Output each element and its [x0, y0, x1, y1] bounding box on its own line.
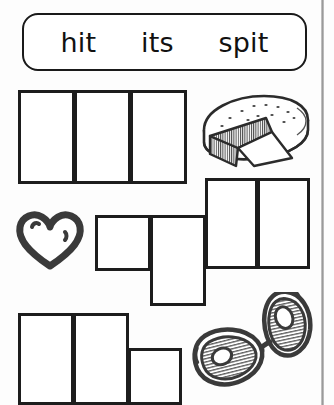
- letter-box-2-a[interactable]: [95, 215, 151, 271]
- letter-box-3-a[interactable]: [18, 313, 74, 405]
- sunglasses-icon: [188, 292, 318, 400]
- sunglasses-illustration: [188, 292, 318, 400]
- word-bank-item-its[interactable]: its: [141, 29, 174, 56]
- letter-box-2-c[interactable]: [205, 178, 258, 269]
- letter-box-1-b[interactable]: [74, 90, 131, 184]
- cheese-wheel-illustration: [196, 92, 314, 168]
- letter-box-1-c[interactable]: [130, 90, 187, 184]
- word-bank-item-spit[interactable]: spit: [218, 29, 268, 56]
- worksheet-page: hit its spit: [0, 0, 334, 405]
- letter-box-3-c[interactable]: [128, 348, 182, 405]
- heart-icon: [14, 208, 86, 272]
- word-bank: hit its spit: [22, 13, 307, 71]
- letter-box-2-d[interactable]: [257, 178, 310, 269]
- letter-box-3-b[interactable]: [73, 313, 129, 405]
- page-edge-artifact: [321, 0, 324, 405]
- cheese-wheel-icon: [196, 92, 314, 168]
- word-bank-item-hit[interactable]: hit: [60, 29, 96, 56]
- letter-box-1-a[interactable]: [18, 90, 75, 184]
- heart-illustration: [14, 208, 86, 272]
